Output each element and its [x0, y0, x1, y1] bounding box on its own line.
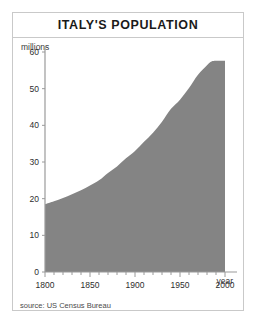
- chart-title-bar: ITALY'S POPULATION: [13, 13, 243, 38]
- x-tick-label: 1850: [81, 280, 100, 290]
- y-tick-label: 10: [30, 230, 40, 240]
- y-tick-label: 50: [30, 84, 40, 94]
- population-area-series: [45, 61, 225, 272]
- y-tick-label: 0: [34, 267, 39, 277]
- x-axis-label: year: [216, 276, 233, 286]
- figure-root: ITALY'S POPULATION millions 010203040506…: [0, 0, 256, 324]
- y-tick-label: 20: [30, 194, 40, 204]
- chart-title: ITALY'S POPULATION: [58, 18, 199, 32]
- x-tick-label: 1950: [171, 280, 190, 290]
- chart-card: ITALY'S POPULATION millions 010203040506…: [12, 12, 244, 311]
- x-tick-label: 1800: [36, 280, 55, 290]
- plot-region: millions 0102030405060180018501900195020…: [13, 38, 243, 312]
- y-tick-label: 30: [30, 157, 40, 167]
- source-note: source: US Census Bureau: [20, 301, 111, 310]
- area-chart-plot: 010203040506018001850190019502000: [13, 38, 245, 312]
- x-tick-label: 1900: [126, 280, 145, 290]
- y-tick-label: 60: [30, 47, 40, 57]
- y-tick-label: 40: [30, 120, 40, 130]
